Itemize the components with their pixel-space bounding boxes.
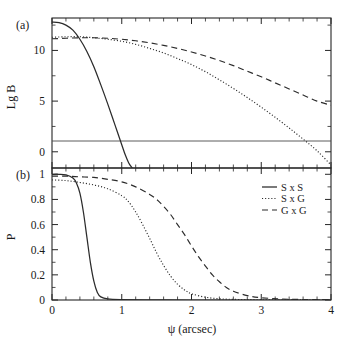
legend: S x SS x GG x G (262, 182, 307, 216)
y-tick-label: 0.4 (31, 244, 46, 256)
curve-s-x-g (52, 37, 331, 165)
x-tick-label: 4 (328, 304, 334, 316)
panel-a-y-axis-title: Lg B (4, 85, 18, 109)
panel-a-x-ticks (52, 18, 331, 168)
x-tick-label: 3 (258, 304, 264, 316)
panel-a-curves (52, 22, 331, 168)
x-tick-label: 0 (49, 304, 55, 316)
y-tick-label: 10 (34, 44, 46, 56)
legend-label-s-x-g: S x G (281, 193, 305, 204)
y-tick-label: 0.2 (31, 269, 46, 281)
legend-label-s-x-s: S x S (281, 182, 303, 193)
panel-a-y-ticks: 0510 (34, 25, 332, 158)
curve-s-x-s (52, 22, 132, 168)
panel-b-label: (b) (16, 168, 30, 182)
x-axis-title: ψ (arcsec) (168, 322, 216, 336)
y-tick-label: 0 (39, 146, 45, 158)
x-tick-label: 2 (189, 304, 195, 316)
figure-container: 0510 (a) Lg B 00.20.40.60.81 01234 (b) P… (0, 0, 344, 345)
y-tick-label: 0 (39, 294, 45, 306)
y-tick-label: 0.8 (31, 193, 46, 205)
legend-label-g-x-g: G x G (281, 205, 307, 216)
panel-a: 0510 (a) Lg B (4, 18, 331, 168)
x-tick-label: 1 (119, 304, 125, 316)
panel-a-frame (52, 18, 331, 168)
scientific-figure: 0510 (a) Lg B 00.20.40.60.81 01234 (b) P… (0, 0, 344, 345)
panel-b-y-axis-title: P (4, 233, 18, 240)
y-tick-label: 5 (39, 95, 45, 107)
y-tick-label: 1 (39, 168, 45, 180)
y-tick-label: 0.6 (31, 219, 46, 231)
curve-g-x-g (52, 38, 331, 105)
panel-a-label: (a) (16, 18, 29, 32)
